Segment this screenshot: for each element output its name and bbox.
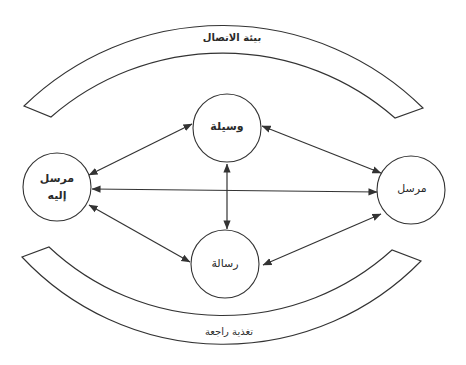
medium-label: وسيلة xyxy=(210,118,243,135)
sender-label: مرسل xyxy=(397,180,427,197)
arrow-medium-sender xyxy=(262,126,381,173)
feedback-label: تغذية راجعة xyxy=(205,326,253,337)
arrow-receiver-medium xyxy=(89,124,192,175)
message-label: رسالة xyxy=(211,255,238,272)
receiver-label-line1: مرسل xyxy=(40,170,74,187)
arrow-message-sender xyxy=(263,214,381,265)
receiver-label-line2: إليه xyxy=(40,187,74,204)
arrow-receiver-message xyxy=(89,205,190,262)
environment-label: بيئة الاتصال xyxy=(203,32,261,43)
receiver-label: مرسل إليه xyxy=(40,170,74,204)
arrow-receiver-sender xyxy=(92,189,377,192)
